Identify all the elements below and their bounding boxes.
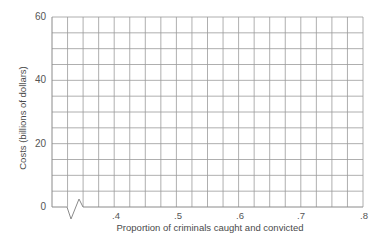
x-tick-0.5: .5 xyxy=(168,210,188,221)
chart-grid xyxy=(0,0,383,244)
y-tick-20: 20 xyxy=(26,138,46,149)
x-tick-0.8: .8 xyxy=(354,210,374,221)
x-tick-0.6: .6 xyxy=(230,210,250,221)
x-tick-0.7: .7 xyxy=(291,210,311,221)
x-axis-label: Proportion of criminals caught and convi… xyxy=(100,222,320,233)
y-axis-label: Costs (billions of dollars) xyxy=(17,66,28,169)
y-tick-60: 60 xyxy=(26,11,46,22)
y-tick-40: 40 xyxy=(26,74,46,85)
axis-break-icon xyxy=(67,199,83,219)
y-tick-0: 0 xyxy=(26,201,46,212)
x-tick-0.4: .4 xyxy=(106,210,126,221)
